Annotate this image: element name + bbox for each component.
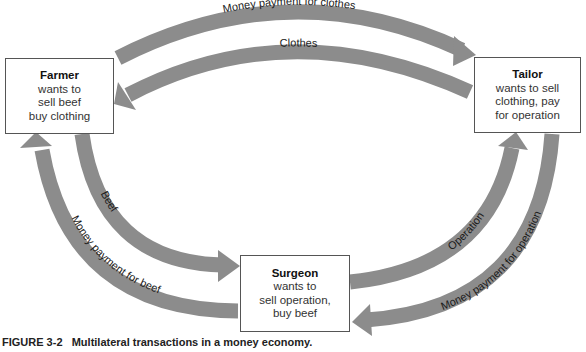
arrow-label: Clothes [280, 36, 319, 49]
surgeon-box: Surgeon wants to sell operation, buy bee… [240, 255, 350, 332]
node-line: wants to [274, 280, 317, 294]
node-line: buy clothing [29, 110, 90, 124]
caption-number: FIGURE 3-2 [2, 336, 63, 348]
node-line: buy beef [273, 307, 317, 321]
figure-caption: FIGURE 3-2 Multilateral transactions in … [2, 336, 312, 348]
arrowhead-icon [352, 304, 372, 336]
arrowhead-icon [453, 36, 476, 66]
farmer-box: Farmer wants to sell beef buy clothing [5, 58, 114, 134]
arrowhead-icon [218, 250, 240, 282]
arrow-money-for-operation: Money payment for operation [352, 134, 552, 336]
node-line: sell operation, [259, 294, 331, 308]
caption-text: Multilateral transactions in a money eco… [72, 336, 313, 348]
node-line: sell beef [38, 96, 81, 110]
node-title: Tailor [512, 68, 542, 82]
tailor-box: Tailor wants to sell clothing, pay for o… [474, 57, 581, 133]
arrowhead-icon [498, 132, 528, 150]
node-line: for operation [495, 109, 560, 123]
arrow-clothes: Clothes [114, 36, 470, 110]
node-line: clothing, pay [495, 95, 560, 109]
node-line: wants to [38, 83, 81, 97]
node-title: Farmer [40, 69, 79, 83]
node-line: wants to sell [496, 82, 559, 96]
arrow-money-for-beef: Money payment for beef [20, 132, 238, 311]
arrowhead-icon [20, 132, 52, 148]
node-title: Surgeon [272, 267, 319, 281]
arrow-label: Money payment for operation [439, 209, 543, 312]
